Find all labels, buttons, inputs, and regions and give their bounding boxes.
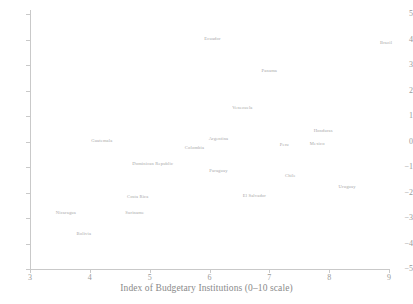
y-tick-label: 0 <box>389 138 413 146</box>
data-point-label: Mexico <box>310 140 325 145</box>
x-tick-label: 6 <box>200 274 220 282</box>
y-tick-mark <box>26 142 30 143</box>
y-tick-label: 2 <box>389 87 413 95</box>
y-tick-mark <box>26 14 30 15</box>
data-point-label: Honduras <box>314 128 333 133</box>
x-tick-label: 8 <box>319 274 339 282</box>
y-tick-mark <box>26 116 30 117</box>
x-tick-label: 3 <box>20 274 40 282</box>
y-tick-mark <box>26 244 30 245</box>
data-point-label: Peru <box>280 142 289 147</box>
y-tick-label: −2 <box>389 189 413 197</box>
x-tick-label: 5 <box>140 274 160 282</box>
y-tick-label: 4 <box>389 36 413 44</box>
y-tick-mark <box>26 193 30 194</box>
x-axis-title: Index of Budgetary Institutions (0–10 sc… <box>0 283 413 294</box>
y-tick-label: 3 <box>389 61 413 69</box>
x-tick-label: 4 <box>80 274 100 282</box>
x-tick-label: 7 <box>259 274 279 282</box>
data-point-label: Paraguay <box>209 167 227 172</box>
y-tick-mark <box>26 40 30 41</box>
y-tick-label: −5 <box>389 265 413 273</box>
y-tick-label: −4 <box>389 240 413 248</box>
y-tick-label: −3 <box>389 214 413 222</box>
y-tick-mark <box>26 167 30 168</box>
y-tick-mark <box>26 218 30 219</box>
data-point-label: Argentina <box>209 135 229 140</box>
data-point-label: Chile <box>285 172 296 177</box>
data-point-label: Colombia <box>185 144 204 149</box>
y-tick-label: 1 <box>389 112 413 120</box>
y-axis-line <box>30 10 31 269</box>
scatter-chart: 543210−1−2−3−4−5 3456789 EcuadorBrazilPa… <box>0 0 413 304</box>
y-tick-label: 5 <box>389 10 413 18</box>
data-point-label: Dominican Republic <box>132 161 173 166</box>
y-tick-mark <box>26 65 30 66</box>
data-point-label: Ecuador <box>204 36 220 41</box>
y-tick-mark <box>26 91 30 92</box>
data-point-label: Brazil <box>380 40 392 45</box>
data-point-label: Suriname <box>125 209 144 214</box>
data-point-label: Venezuela <box>232 105 252 110</box>
data-point-label: El Salvador <box>243 193 266 198</box>
data-point-label: Guatemala <box>91 138 112 143</box>
x-tick-label: 9 <box>379 274 399 282</box>
data-point-label: Costa Rica <box>127 194 149 199</box>
data-point-label: Uruguay <box>339 184 356 189</box>
y-tick-label: −1 <box>389 163 413 171</box>
data-point-label: Bolivia <box>77 231 92 236</box>
data-point-label: Nicaragua <box>56 209 76 214</box>
data-point-label: Panama <box>262 68 277 73</box>
